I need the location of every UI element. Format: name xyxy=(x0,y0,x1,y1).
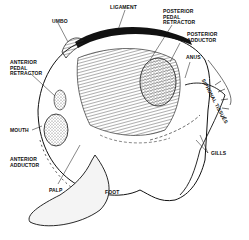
label-palp: PALP xyxy=(49,188,62,194)
label-anus: ANUS xyxy=(186,55,201,61)
label-gills: GILLS xyxy=(211,151,226,157)
anterior-adductor-muscle xyxy=(44,114,68,146)
label-umbo: UMBO xyxy=(52,19,68,25)
label-anterior-pedal-retractor: ANTERIOR PEDAL RETRACTOR xyxy=(10,60,42,77)
label-posterior-adductor: POSTERIOR ADDUCTOR xyxy=(187,32,217,43)
label-posterior-pedal-retractor: POSTERIOR PEDAL RETRACTOR xyxy=(163,9,195,26)
label-ligament: LIGAMENT xyxy=(110,5,137,11)
posterior-adductor-muscle xyxy=(140,58,176,106)
label-anterior-adductor: ANTERIOR ADDUCTOR xyxy=(10,157,39,168)
label-mouth: MOUTH xyxy=(10,128,29,134)
label-foot: FOOT xyxy=(105,190,119,196)
anterior-pedal-retractor-muscle xyxy=(54,90,66,110)
